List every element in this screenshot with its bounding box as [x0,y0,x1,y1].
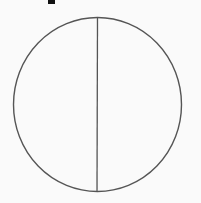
vertical-diameter [97,18,98,192]
cropped-text-fragment [48,0,55,4]
halved-circle-diagram [0,0,201,203]
